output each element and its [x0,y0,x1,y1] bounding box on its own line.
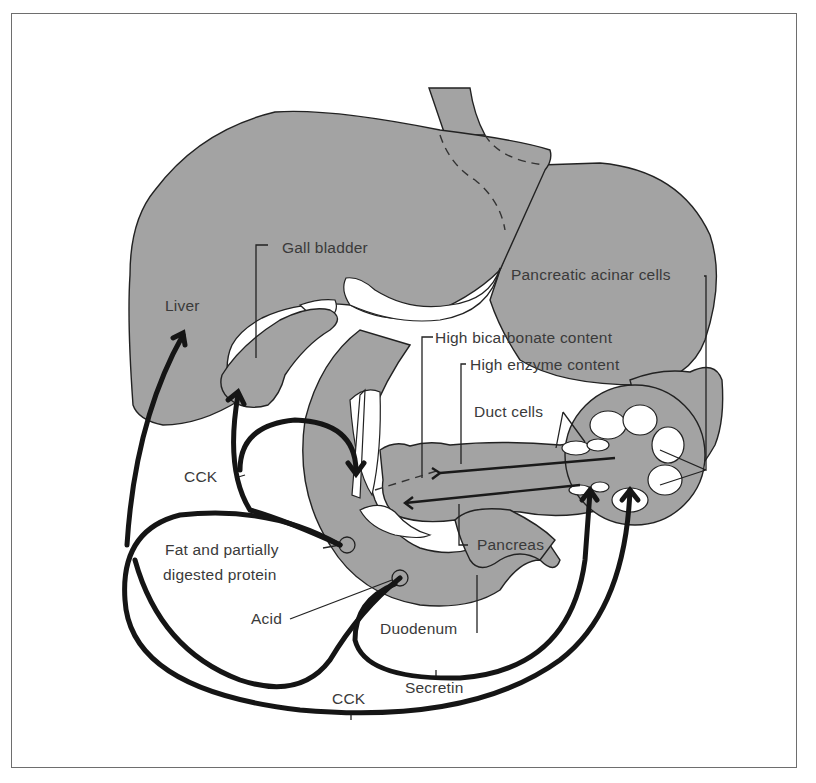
label-fat-protein-1: Fat and partially [165,541,279,558]
acinar-cell [623,405,657,435]
label-acid: Acid [251,610,282,627]
label-high-bicarbonate: High bicarbonate content [435,329,613,346]
label-cck-lower: CCK [332,690,366,707]
acinar-cell [652,427,684,463]
esophagus [429,88,485,135]
label-pancreatic-acinar-cells: Pancreatic acinar cells [511,266,671,283]
label-duodenum: Duodenum [380,620,457,637]
label-gall-bladder: Gall bladder [282,239,368,256]
acinar-cell [590,411,626,439]
label-fat-protein-2: digested protein [163,566,277,583]
duct-cell [587,439,609,451]
label-secretin: Secretin [405,679,463,696]
label-duct-cells: Duct cells [474,403,543,420]
duct-cell [591,482,609,492]
label-cck-upper: CCK [184,468,218,485]
label-pancreas: Pancreas [477,536,544,553]
label-liver: Liver [165,297,200,314]
label-high-enzyme: High enzyme content [470,356,620,373]
digestive-hormone-diagram: Liver Gall bladder Pancreatic acinar cel… [0,0,816,783]
duct-cell [562,441,590,455]
